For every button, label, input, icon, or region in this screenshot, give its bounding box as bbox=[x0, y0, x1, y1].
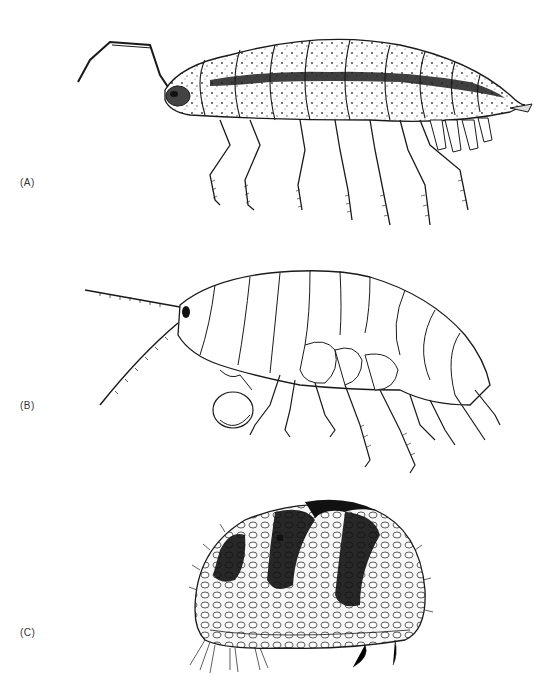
panel-label-b: (B) bbox=[20, 400, 35, 411]
amphipod-illustration bbox=[70, 255, 520, 480]
isopod-illustration bbox=[70, 20, 550, 230]
ostracod-illustration bbox=[175, 490, 445, 680]
panel-label-c: (C) bbox=[20, 627, 35, 638]
panel-label-a: (A) bbox=[20, 177, 35, 188]
